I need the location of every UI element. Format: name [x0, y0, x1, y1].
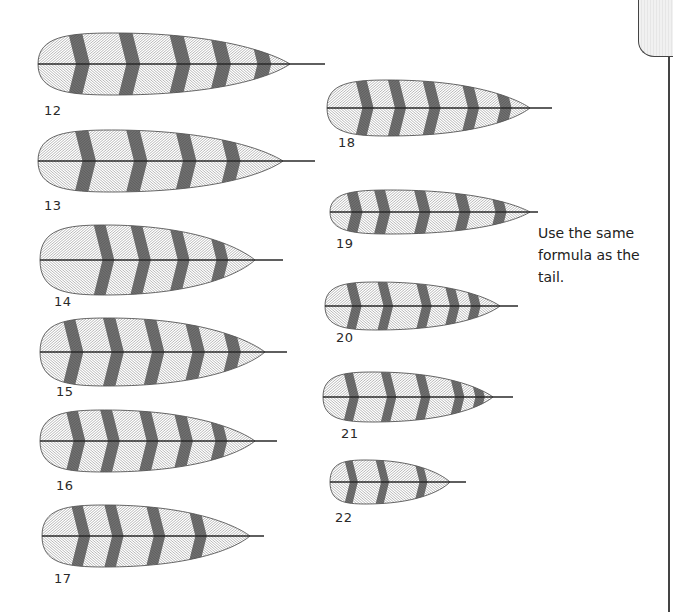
feather-label-15: 15: [56, 384, 74, 399]
feather-label-12: 12: [44, 103, 62, 118]
note-line-3: tail.: [538, 266, 640, 288]
feather-label-22: 22: [335, 510, 353, 525]
feather-13: [0, 127, 382, 195]
feather-label-13: 13: [44, 198, 62, 213]
note-line-2: formula as the: [538, 244, 640, 266]
note-line-1: Use the same: [538, 222, 640, 244]
feather-label-21: 21: [341, 426, 359, 441]
feather-label-16: 16: [56, 478, 74, 493]
feather-12: [0, 30, 391, 98]
feather-21: [273, 370, 573, 425]
feather-label-18: 18: [338, 135, 356, 150]
feather-22: [286, 458, 522, 506]
feather-18: [271, 77, 619, 139]
instruction-note: Use the same formula as the tail.: [538, 222, 640, 288]
feather-16: [0, 407, 354, 475]
feather-label-14: 14: [54, 294, 72, 309]
feather-15: [0, 315, 376, 390]
feather-label-17: 17: [54, 571, 72, 586]
feather-17: [0, 502, 350, 570]
feather-14: [0, 222, 370, 299]
feather-label-19: 19: [336, 236, 354, 251]
feather-20: [277, 280, 578, 333]
feather-label-20: 20: [336, 330, 354, 345]
